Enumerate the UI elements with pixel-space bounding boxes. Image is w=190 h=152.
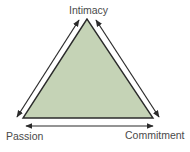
label-intimacy: Intimacy <box>69 5 108 16</box>
label-commitment: Commitment <box>125 130 185 141</box>
label-passion: Passion <box>6 131 43 142</box>
love-triangle <box>23 19 153 118</box>
